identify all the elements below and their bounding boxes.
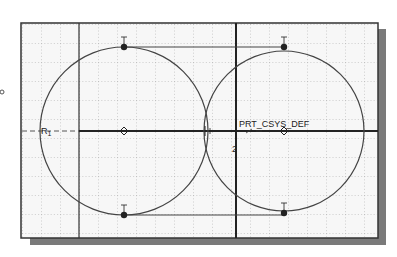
coordinate-system-label: PRT_CSYS_DEF: [239, 119, 310, 129]
edge-artifact: [0, 90, 4, 94]
sketch-canvas[interactable]: R1 PRT_CSYS_DEF 2: [0, 0, 397, 257]
constraint-marker: 2: [232, 144, 237, 154]
